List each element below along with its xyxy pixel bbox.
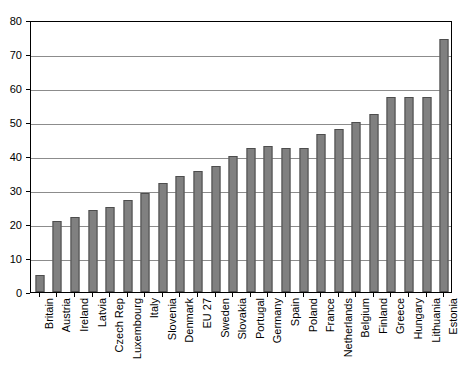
y-tick-mark [26,21,30,22]
y-tick-mark [26,89,30,90]
bar-slot [348,22,366,292]
bar-slot [154,22,172,292]
x-tick-label: Austria [61,298,72,332]
bar-slot [242,22,260,292]
x-tick-mark [56,293,57,297]
x-tick-label: Netherlands [343,298,354,357]
x-tick-label: France [325,298,336,332]
bar-slot [189,22,207,292]
bars-group [31,22,451,292]
bar-slot [49,22,67,292]
x-tick-mark [373,293,374,297]
bar[interactable] [158,183,167,292]
bar-slot [312,22,330,292]
x-tick-label: Ireland [79,298,90,332]
x-tick-mark [109,293,110,297]
x-tick-mark [162,293,163,297]
bar-slot [435,22,453,292]
x-tick-mark [426,293,427,297]
bar[interactable] [334,129,343,292]
bar-slot [101,22,119,292]
bar[interactable] [281,148,290,293]
bar-slot [277,22,295,292]
x-tick-label: Lithuania [431,298,442,343]
x-tick-label: Sweden [220,298,231,338]
y-tick-label: 70 [10,50,22,61]
bar[interactable] [299,148,308,293]
bar-slot [207,22,225,292]
x-tick-mark [144,293,145,297]
bar[interactable] [387,97,396,293]
y-tick-mark [26,225,30,226]
x-tick-label: Finland [378,298,389,334]
x-tick-label: Latvia [97,298,108,327]
bar-slot [119,22,137,292]
x-tick-mark [197,293,198,297]
bar[interactable] [317,134,326,292]
bar[interactable] [264,146,273,292]
y-tick-label: 40 [10,152,22,163]
bar[interactable] [141,193,150,292]
y-tick-label: 0 [16,288,22,299]
bar[interactable] [352,122,361,292]
x-tick-mark [390,293,391,297]
bar[interactable] [106,207,115,292]
y-tick-label: 80 [10,16,22,27]
bar[interactable] [246,148,255,293]
bar-slot [137,22,155,292]
x-tick-label: Luxembourg [132,298,143,359]
x-tick-label: Denmark [184,298,195,343]
x-tick-mark [355,293,356,297]
bar-slot [365,22,383,292]
y-tick-label: 30 [10,186,22,197]
bar-slot [224,22,242,292]
x-tick-mark [39,293,40,297]
bar[interactable] [422,97,431,293]
bar-slot [330,22,348,292]
bar-slot [295,22,313,292]
bar[interactable] [35,275,44,292]
x-axis-labels: BritainAustriaIrelandLatviaCzech RepLuxe… [30,298,452,388]
x-tick-label: Poland [308,298,319,332]
bar[interactable] [440,39,449,292]
bar[interactable] [88,210,97,292]
x-tick-label: Britain [44,298,55,329]
y-tick-label: 50 [10,118,22,129]
x-tick-mark [338,293,339,297]
bar-slot [400,22,418,292]
x-tick-mark [215,293,216,297]
bar-slot [418,22,436,292]
x-tick-label: Slovakia [237,298,248,340]
bar-slot [66,22,84,292]
bar[interactable] [229,156,238,292]
bar[interactable] [176,176,185,292]
x-tick-label: Czech Rep [114,298,125,352]
x-tick-mark [320,293,321,297]
plot-area [30,21,452,293]
x-tick-mark [285,293,286,297]
x-tick-mark [408,293,409,297]
bar[interactable] [405,97,414,293]
y-tick-label: 20 [10,220,22,231]
x-tick-label: Belgium [360,298,371,338]
bar[interactable] [70,217,79,292]
x-tick-mark [267,293,268,297]
x-tick-label: Germany [272,298,283,343]
y-axis: 01020304050607080 [0,0,30,388]
x-tick-label: EU 27 [202,298,213,329]
x-tick-mark [92,293,93,297]
bar[interactable] [53,221,62,292]
y-tick-label: 60 [10,84,22,95]
x-tick-label: Italy [149,298,160,318]
x-tick-mark [179,293,180,297]
bar[interactable] [369,114,378,293]
x-tick-label: Greece [395,298,406,334]
y-tick-mark [26,55,30,56]
bar[interactable] [194,171,203,292]
x-tick-mark [74,293,75,297]
bar[interactable] [211,166,220,292]
bar-chart: 01020304050607080 BritainAustriaIrelandL… [0,0,462,388]
y-tick-label: 10 [10,254,22,265]
bar[interactable] [123,200,132,292]
bar-slot [172,22,190,292]
